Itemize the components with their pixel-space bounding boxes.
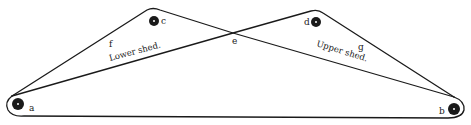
label-b: b xyxy=(439,106,445,116)
bottom-band-line xyxy=(7,96,464,118)
pulley-d xyxy=(311,17,321,27)
warp-line-a-c-b xyxy=(12,9,454,98)
label-a: a xyxy=(29,103,35,113)
pulley-b xyxy=(448,103,460,115)
pulley-a xyxy=(12,98,24,110)
shed-diagram: a b c d e f g Lower shed. Upper shed. xyxy=(0,0,471,125)
label-c: c xyxy=(161,16,166,26)
label-f: f xyxy=(109,39,113,49)
pulley-c xyxy=(149,16,159,26)
label-d: d xyxy=(304,17,310,27)
lower-shed-caption: Lower shed. xyxy=(108,40,162,63)
label-e: e xyxy=(232,36,237,46)
